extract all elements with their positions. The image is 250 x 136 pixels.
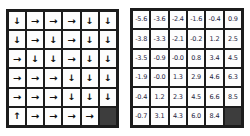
policy-cell: ↓ <box>62 88 80 107</box>
value-cell: -0.0 <box>169 49 187 68</box>
arrow-down-icon: ↓ <box>86 35 94 44</box>
policy-cell: → <box>26 88 44 107</box>
state-value: -0.0 <box>154 74 166 81</box>
value-cell: 1.2 <box>150 87 168 106</box>
arrow-down-icon: ↓ <box>67 93 75 102</box>
policy-cell: ↓ <box>62 68 80 87</box>
value-cell: 4.3 <box>169 107 187 126</box>
value-cell: 0.8 <box>187 49 205 68</box>
state-value: 8.5 <box>228 94 238 101</box>
arrow-up-icon: ↑ <box>13 112 21 121</box>
value-cell: -0.7 <box>132 107 150 126</box>
state-value: -1.9 <box>135 74 147 81</box>
value-cell: -1.9 <box>132 68 150 87</box>
state-value: 4.3 <box>173 113 183 120</box>
policy-cell: → <box>62 49 80 68</box>
policy-grid: ↓→→→↓↓↓→↓→↓↓→↓↓→↓↓→→→↓↓↓→→→↓↓↓↑→→→→ <box>6 9 119 128</box>
policy-cell: ↓ <box>99 30 117 49</box>
state-value: 4.5 <box>191 94 201 101</box>
value-cell: 8.4 <box>205 107 223 126</box>
value-cell: -0.9 <box>150 49 168 68</box>
arrow-down-icon: ↓ <box>49 54 57 63</box>
value-cell: 1.3 <box>169 68 187 87</box>
arrow-right-icon: → <box>31 35 39 44</box>
state-value: -0.0 <box>172 55 184 62</box>
state-value: 0.9 <box>228 16 238 23</box>
arrow-right-icon: → <box>31 112 39 121</box>
policy-cell: → <box>26 11 44 30</box>
policy-cell: → <box>8 88 26 107</box>
arrow-down-icon: ↓ <box>67 74 75 83</box>
policy-cell: ↓ <box>99 88 117 107</box>
policy-cell: → <box>62 30 80 49</box>
state-value: 0.8 <box>191 55 201 62</box>
arrow-right-icon: → <box>31 16 39 25</box>
arrow-right-icon: → <box>49 112 57 121</box>
value-grid: -5.6-3.6-2.4-1.6-0.40.9-3.8-3.3-2.1-0.21… <box>130 8 244 128</box>
value-cell: -3.8 <box>132 29 150 48</box>
value-cell: 1.2 <box>205 29 223 48</box>
value-cell: 8.5 <box>224 87 242 106</box>
state-value: 1.3 <box>173 74 183 81</box>
arrow-down-icon: ↓ <box>13 16 21 25</box>
value-cell: 4.5 <box>224 49 242 68</box>
policy-cell: ↓ <box>81 88 99 107</box>
arrow-down-icon: ↓ <box>86 54 94 63</box>
state-value: 3.1 <box>155 113 165 120</box>
policy-cell: ↓ <box>8 30 26 49</box>
state-value: 2.9 <box>191 74 201 81</box>
arrow-right-icon: → <box>49 16 57 25</box>
arrow-down-icon: ↓ <box>104 35 112 44</box>
state-value: 6.0 <box>191 113 201 120</box>
state-value: -3.8 <box>135 36 147 43</box>
state-value: 2.5 <box>228 36 238 43</box>
state-value: 3.4 <box>210 55 220 62</box>
arrow-down-icon: ↓ <box>104 16 112 25</box>
state-value: -3.6 <box>154 16 166 23</box>
value-cell: -3.3 <box>150 29 168 48</box>
value-cell: 4.5 <box>187 87 205 106</box>
arrow-down-icon: ↓ <box>13 35 21 44</box>
value-cell: 3.1 <box>150 107 168 126</box>
state-value: 4.6 <box>210 74 220 81</box>
arrow-down-icon: ↓ <box>49 35 57 44</box>
arrow-right-icon: → <box>13 74 21 83</box>
value-cell: 3.4 <box>205 49 223 68</box>
state-value: 1.2 <box>155 94 165 101</box>
arrow-right-icon: → <box>49 93 57 102</box>
policy-cell: ↓ <box>99 68 117 87</box>
state-value: -0.4 <box>135 94 147 101</box>
value-cell: 2.3 <box>169 87 187 106</box>
policy-cell: → <box>81 107 99 126</box>
policy-cell: → <box>26 68 44 87</box>
arrow-down-icon: ↓ <box>104 54 112 63</box>
value-cell: -3.6 <box>150 10 168 29</box>
value-cell: -2.4 <box>169 10 187 29</box>
state-value: -0.9 <box>154 55 166 62</box>
state-value: -0.7 <box>135 113 147 120</box>
policy-cell: → <box>44 11 62 30</box>
state-value: -3.3 <box>154 36 166 43</box>
arrow-right-icon: → <box>31 74 39 83</box>
value-cell: 6.0 <box>187 107 205 126</box>
arrow-down-icon: ↓ <box>104 93 112 102</box>
policy-cell: → <box>62 107 80 126</box>
arrow-down-icon: ↓ <box>86 74 94 83</box>
state-value: -2.4 <box>172 16 184 23</box>
policy-cell: → <box>8 49 26 68</box>
value-cell: 0.9 <box>224 10 242 29</box>
value-cell: 4.6 <box>205 68 223 87</box>
policy-cell: → <box>26 107 44 126</box>
value-cell: -5.6 <box>132 10 150 29</box>
policy-cell: → <box>26 30 44 49</box>
arrow-right-icon: → <box>67 16 75 25</box>
value-cell: 2.9 <box>187 68 205 87</box>
policy-cell: ↓ <box>44 30 62 49</box>
arrow-right-icon: → <box>13 93 21 102</box>
goal-cell <box>224 107 242 126</box>
gridworld-figure: ↓→→→↓↓↓→↓→↓↓→↓↓→↓↓→→→↓↓↓→→→↓↓↓↑→→→→ -5.6… <box>0 0 250 136</box>
arrow-right-icon: → <box>67 35 75 44</box>
policy-cell: ↓ <box>81 11 99 30</box>
policy-cell: ↓ <box>44 49 62 68</box>
value-cell: -1.6 <box>187 10 205 29</box>
